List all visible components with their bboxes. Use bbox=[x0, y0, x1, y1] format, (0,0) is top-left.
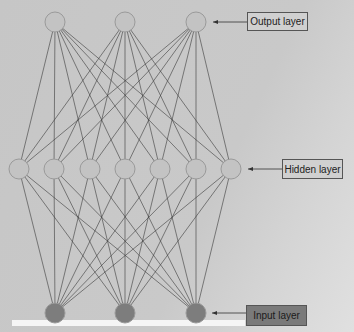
hidden-neuron bbox=[44, 159, 64, 179]
hidden-neuron bbox=[221, 159, 241, 179]
output-layer-label: Output layer bbox=[247, 12, 308, 31]
hidden-layer-label: Hidden layer bbox=[282, 159, 343, 179]
output-neuron bbox=[115, 12, 135, 32]
hidden-neuron bbox=[150, 159, 170, 179]
hidden-neuron bbox=[80, 159, 100, 179]
input-neuron bbox=[45, 303, 65, 323]
output-neuron bbox=[186, 12, 206, 32]
output-neuron bbox=[45, 12, 65, 32]
input-layer-label: Input layer bbox=[246, 305, 307, 326]
hidden-neuron bbox=[9, 159, 29, 179]
hidden-neuron bbox=[115, 159, 135, 179]
input-neuron bbox=[186, 303, 206, 323]
input-neuron bbox=[115, 303, 135, 323]
hidden-neuron bbox=[186, 159, 206, 179]
